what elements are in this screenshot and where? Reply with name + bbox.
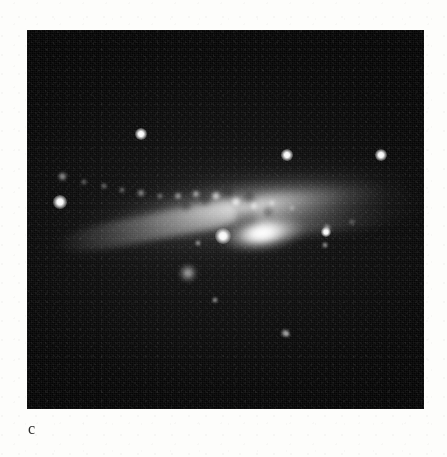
star-upper-right bbox=[375, 149, 387, 161]
star-faint-right bbox=[322, 242, 328, 248]
star-faint-left bbox=[195, 240, 201, 246]
star-lower-mid bbox=[212, 297, 218, 303]
panel-label: c bbox=[28, 421, 35, 437]
sky-background bbox=[27, 30, 424, 409]
star-bottom-right bbox=[284, 331, 289, 336]
star-below-core bbox=[215, 228, 231, 244]
galaxy-image-plate bbox=[27, 30, 424, 409]
fuzzy-companion bbox=[179, 264, 197, 282]
star-upper-left bbox=[135, 128, 147, 140]
figure-page: c bbox=[0, 0, 447, 457]
star-upper-mid bbox=[281, 149, 292, 160]
star-disk-left bbox=[53, 195, 67, 209]
